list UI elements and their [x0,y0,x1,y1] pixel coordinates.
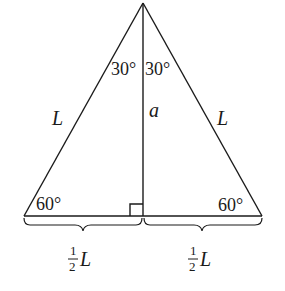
angle-base-right: 60° [218,195,243,215]
side-label-left: L [51,107,63,129]
side-label-right: L [216,107,228,129]
angle-apex-left: 30° [111,59,136,79]
left-side [24,3,143,216]
triangle-diagram: 30° 30° 60° 60° L L a 1 2 L 1 2 L [0,0,285,291]
fraction-variable: L [199,248,211,270]
fraction-numerator: 1 [70,243,77,258]
fraction-denominator: 2 [69,259,76,274]
base-half-label-right: 1 2 L [188,243,211,274]
right-side [143,3,262,216]
right-angle-marker [130,204,143,216]
left-brace [24,218,142,231]
fraction-variable: L [79,248,91,270]
fraction-numerator: 1 [190,243,197,258]
base-half-label-left: 1 2 L [68,243,91,274]
altitude-label: a [149,99,159,121]
fraction-denominator: 2 [189,259,196,274]
angle-apex-right: 30° [145,59,170,79]
angle-base-left: 60° [36,194,61,214]
base-braces [24,218,262,231]
right-brace [144,218,262,231]
